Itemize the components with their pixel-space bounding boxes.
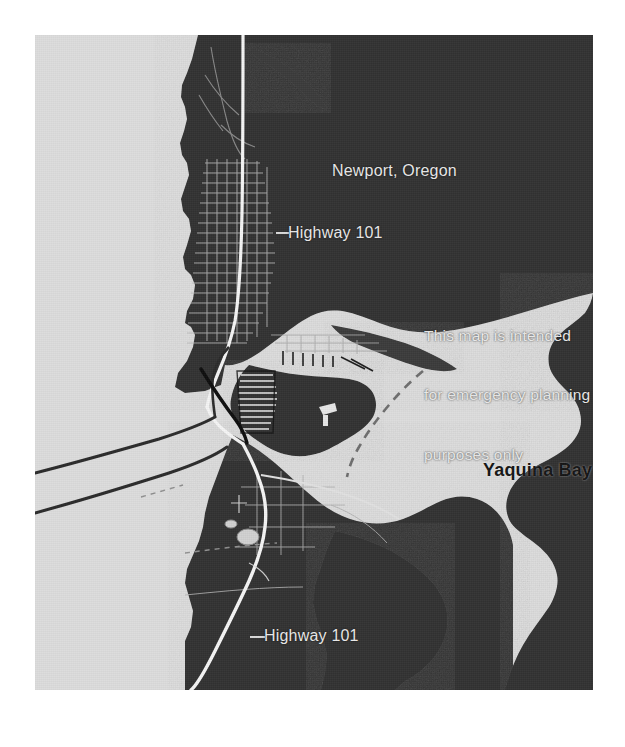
south-jetty (35, 447, 227, 513)
navigation-channel-dashed (347, 371, 423, 477)
leader-line-highway-south (250, 636, 265, 638)
west-dashed-boundary (141, 485, 183, 497)
north-jetty (35, 417, 215, 473)
bayfront-piers (283, 351, 373, 371)
map-figure[interactable]: Newport, Oregon Highway 101 This map is … (35, 35, 593, 690)
disclaimer-line-1: This map is intended (424, 326, 590, 346)
label-highway-101-north: Highway 101 (288, 223, 383, 243)
label-highway-101-south: Highway 101 (264, 626, 359, 646)
south-land-ponds (225, 520, 259, 545)
yaquina-bay-bridge (201, 369, 247, 443)
label-yaquina-bay: Yaquina Bay (483, 459, 592, 482)
disclaimer-line-2: for emergency planning (424, 385, 590, 405)
south-dashed-boundary (185, 543, 277, 553)
boat-basin-markers (319, 403, 337, 426)
page-canvas: Newport, Oregon Highway 101 This map is … (0, 0, 625, 747)
label-newport-oregon: Newport, Oregon (332, 161, 457, 181)
